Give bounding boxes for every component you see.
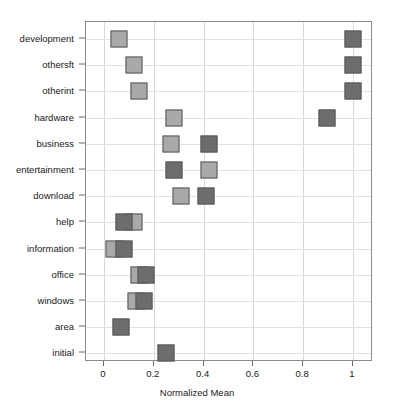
x-axis-title: Normalized Mean [0, 387, 394, 398]
y-tick-mark [79, 352, 85, 353]
plot-area [85, 21, 372, 361]
data-marker [163, 135, 180, 152]
gridline-vertical [303, 22, 304, 360]
data-marker [173, 188, 190, 205]
y-tick-label-otherint: otherint [42, 85, 74, 96]
y-tick-mark [79, 64, 85, 65]
gridline-horizontal [86, 353, 371, 354]
gridline-vertical [154, 22, 155, 360]
y-tick-label-othersft: othersft [42, 59, 74, 70]
y-tick-mark [79, 142, 85, 143]
gridline-vertical [253, 22, 254, 360]
y-tick-label-download: download [33, 190, 74, 201]
data-marker [345, 83, 362, 100]
data-marker [200, 135, 217, 152]
y-tick-mark [79, 90, 85, 91]
y-tick-mark [79, 326, 85, 327]
x-tick-mark [252, 361, 253, 366]
gridline-horizontal [86, 91, 371, 92]
y-tick-mark [79, 116, 85, 117]
gridline-horizontal [86, 275, 371, 276]
y-tick-label-area: area [55, 321, 74, 332]
y-tick-mark [79, 38, 85, 39]
data-marker [198, 188, 215, 205]
data-marker [200, 162, 217, 179]
y-tick-label-help: help [56, 216, 74, 227]
x-tick-mark [103, 361, 104, 366]
y-tick-label-information: information [27, 242, 74, 253]
data-marker [110, 31, 127, 48]
x-tick-label: 0.6 [246, 368, 259, 379]
data-marker [158, 345, 175, 362]
y-tick-mark [79, 195, 85, 196]
data-marker [318, 109, 335, 126]
gridline-horizontal [86, 170, 371, 171]
data-marker [125, 57, 142, 74]
y-tick-mark [79, 247, 85, 248]
gridline-horizontal [86, 144, 371, 145]
data-marker [130, 83, 147, 100]
data-marker [165, 162, 182, 179]
x-tick-mark [352, 361, 353, 366]
y-tick-label-business: business [37, 137, 75, 148]
chart-figure: developmentothersftotherinthardwarebusin… [0, 0, 394, 418]
data-marker [115, 240, 132, 257]
y-tick-label-development: development [20, 33, 74, 44]
y-tick-mark [79, 221, 85, 222]
y-axis-labels: developmentothersftotherinthardwarebusin… [0, 21, 74, 361]
data-marker [115, 214, 132, 231]
y-tick-mark [79, 300, 85, 301]
x-tick-mark [302, 361, 303, 366]
data-marker [138, 266, 155, 283]
x-tick-label: 0.8 [296, 368, 309, 379]
data-marker [135, 293, 152, 310]
x-tick-label: 0.4 [196, 368, 209, 379]
y-tick-label-office: office [51, 268, 74, 279]
y-tick-mark [79, 169, 85, 170]
x-tick-mark [203, 361, 204, 366]
data-marker [113, 319, 130, 336]
gridline-vertical [104, 22, 105, 360]
y-tick-label-initial: initial [52, 347, 74, 358]
x-tick-label: 0.2 [146, 368, 159, 379]
gridline-horizontal [86, 196, 371, 197]
y-tick-label-windows: windows [38, 295, 74, 306]
x-tick-label: 1 [349, 368, 354, 379]
data-marker [165, 109, 182, 126]
y-tick-label-entertainment: entertainment [16, 164, 74, 175]
data-marker [345, 57, 362, 74]
data-marker [345, 31, 362, 48]
y-tick-mark [79, 273, 85, 274]
gridline-horizontal [86, 39, 371, 40]
y-tick-label-hardware: hardware [34, 111, 74, 122]
x-tick-label: 0 [100, 368, 105, 379]
x-tick-mark [153, 361, 154, 366]
